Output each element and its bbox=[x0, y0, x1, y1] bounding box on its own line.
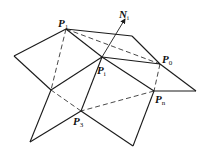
label-p3: P3 bbox=[73, 115, 84, 129]
normal-vector-arrow bbox=[102, 19, 125, 57]
solid-edges bbox=[14, 29, 196, 146]
diag-p3-leftmid bbox=[51, 90, 81, 111]
mesh-diagram: P1 Ni Pi P0 Pn P3 bbox=[0, 0, 208, 155]
edge-p3-bottomright bbox=[81, 111, 133, 146]
diag-p1-leftmid bbox=[51, 29, 66, 90]
edge-left-p1 bbox=[14, 29, 66, 56]
edge-p1-pi bbox=[66, 29, 102, 57]
diag-p0-pn bbox=[154, 64, 160, 91]
labels: P1 Ni Pi P0 Pn P3 bbox=[58, 8, 173, 129]
edge-topright-p0 bbox=[132, 36, 160, 64]
diag-pn-p3 bbox=[81, 91, 154, 111]
label-pi: Pi bbox=[97, 64, 106, 78]
edge-leftmid-bottomleft bbox=[30, 90, 51, 142]
label-p0: P0 bbox=[162, 53, 173, 67]
label-pn: Pn bbox=[155, 93, 166, 107]
edge-left-leftmid bbox=[14, 56, 51, 90]
label-p1: P1 bbox=[58, 17, 69, 31]
edge-p0-right bbox=[160, 64, 196, 91]
edge-leftmid-pi bbox=[51, 57, 102, 90]
label-ni: Ni bbox=[118, 8, 129, 22]
edge-bottomright-pn bbox=[133, 91, 154, 146]
